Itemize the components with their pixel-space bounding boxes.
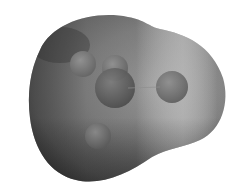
molecule-render bbox=[0, 0, 247, 196]
right-atom-shading bbox=[156, 71, 188, 103]
left-upper-atom-shading bbox=[70, 51, 96, 77]
lower-left-atom-shading bbox=[85, 123, 111, 149]
molecular-surface-svg bbox=[0, 0, 247, 196]
